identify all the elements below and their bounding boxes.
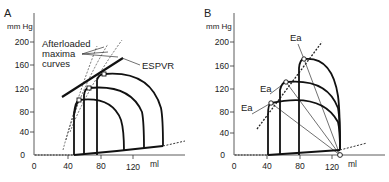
x-tick-label: 0 bbox=[32, 161, 37, 171]
panel-b-letter: B bbox=[204, 7, 211, 19]
panel-a-x-ticks: 0 40 80 120 ml bbox=[32, 155, 159, 172]
panel-b-x-unit: ml bbox=[348, 159, 357, 169]
x-tick-label: 120 bbox=[126, 162, 140, 172]
edpvr-curve bbox=[268, 150, 340, 155]
y-tick-label: 200 bbox=[215, 37, 229, 47]
afterloaded-label-line3: curves bbox=[42, 58, 70, 69]
pv-loop-diagram: A mm Hg 200 160 120 80 40 0 0 40 80 1 bbox=[0, 0, 389, 182]
y-tick-label: 120 bbox=[215, 84, 229, 94]
y-tick-label: 160 bbox=[215, 61, 229, 71]
x-tick-label: 40 bbox=[63, 161, 73, 171]
espvr-line bbox=[62, 58, 123, 97]
y-tick-label: 80 bbox=[220, 107, 230, 117]
panel-a: A mm Hg 200 160 120 80 40 0 0 40 80 1 bbox=[4, 7, 185, 172]
y-tick-label: 80 bbox=[20, 107, 30, 117]
pv-loop-3 bbox=[97, 74, 163, 155]
pv-loop-3 bbox=[299, 59, 340, 155]
x-tick-label: 40 bbox=[262, 161, 272, 171]
panel-a-letter: A bbox=[4, 7, 12, 19]
pv-loop-2 bbox=[280, 82, 340, 155]
y-tick-label: 120 bbox=[15, 84, 29, 94]
y-tick-label: 200 bbox=[15, 37, 29, 47]
y-tick-label: 0 bbox=[220, 150, 225, 160]
panel-b-y-ticks: 200 160 120 80 40 0 bbox=[215, 37, 234, 160]
y-tick-label: 160 bbox=[15, 60, 29, 70]
panel-b-x-ticks: 0 40 80 120 ml bbox=[232, 155, 357, 172]
x-tick-label: 80 bbox=[295, 161, 305, 171]
panel-b-y-unit: mm Hg bbox=[206, 22, 232, 31]
edpvr-extension-dashed bbox=[163, 141, 185, 146]
ea-label-2: Ea bbox=[260, 83, 272, 94]
panel-a-y-unit: mm Hg bbox=[7, 22, 33, 31]
espvr-leader-line bbox=[122, 58, 140, 65]
ea-label-3: Ea bbox=[290, 32, 302, 43]
edpvr-curve bbox=[74, 146, 163, 155]
y-tick-label: 40 bbox=[220, 128, 230, 138]
ea-label-1: Ea bbox=[241, 102, 253, 113]
panel-b: B mm Hg 200 160 120 80 40 0 0 40 80 120 … bbox=[204, 7, 385, 172]
espvr-label: ESPVR bbox=[142, 60, 174, 71]
y-tick-label: 40 bbox=[20, 127, 30, 137]
x-tick-label: 0 bbox=[232, 161, 237, 171]
x-tick-label: 80 bbox=[96, 161, 106, 171]
pv-loop-2 bbox=[84, 88, 144, 156]
edpvr-extension-dashed bbox=[340, 143, 367, 150]
y-tick-label: 0 bbox=[20, 150, 25, 160]
panel-a-x-unit: ml bbox=[150, 159, 159, 169]
panel-a-y-ticks: 200 160 120 80 40 0 bbox=[15, 37, 34, 160]
pv-loop-1 bbox=[74, 99, 124, 155]
x-tick-label: 120 bbox=[325, 162, 339, 172]
